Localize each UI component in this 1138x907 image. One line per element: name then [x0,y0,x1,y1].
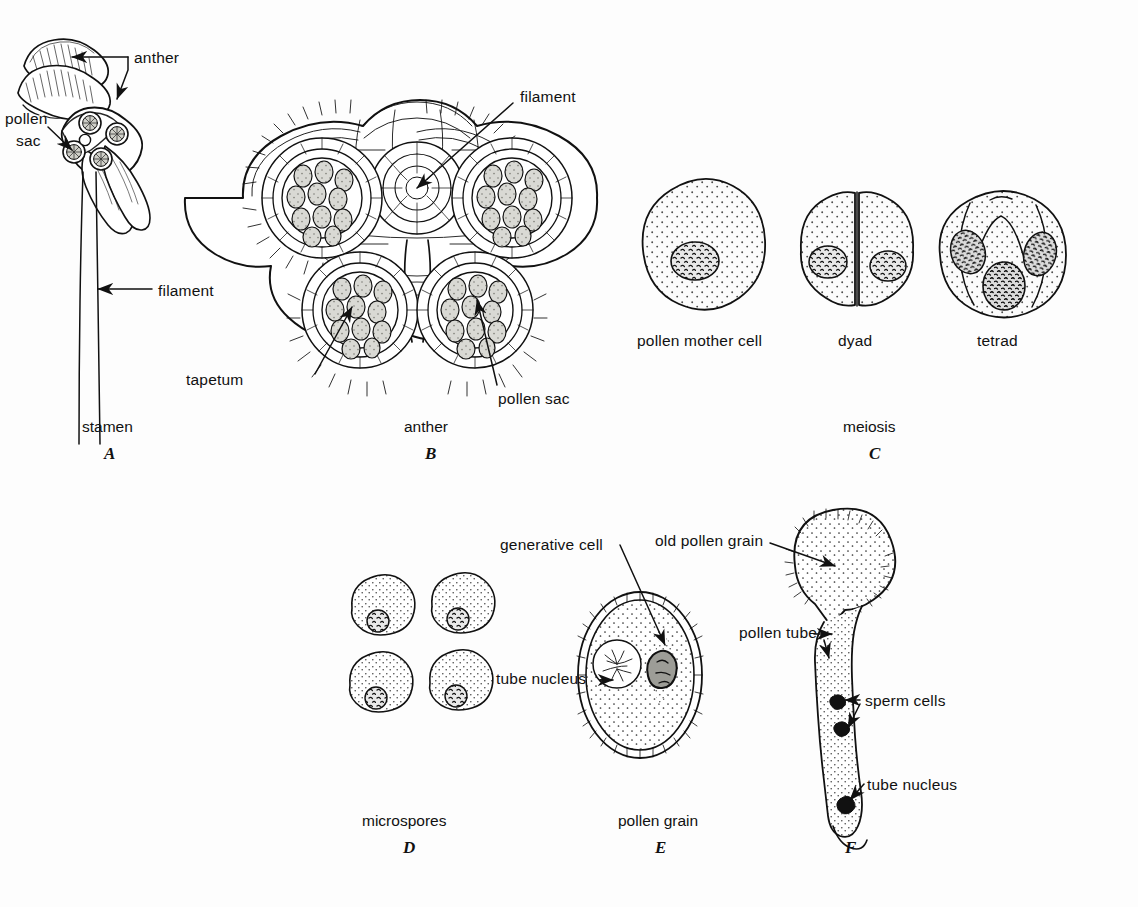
label-pollen-sac-a-line2: sac [16,132,41,150]
label-pollen-sac-b: pollen sac [498,390,570,408]
label-anther-a: anther [134,49,179,67]
label-pollen-sac-a-line1: pollen [5,110,48,128]
label-dyad: dyad [838,332,872,350]
caption-anther: anther [404,418,448,436]
panel-letter-d: D [403,838,415,858]
panel-d-drawing [350,573,495,712]
caption-meiosis: meiosis [843,418,896,436]
label-tapetum-b: tapetum [186,371,243,389]
panel-letter-c: C [869,444,880,464]
label-pollen-mother-cell: pollen mother cell [637,332,762,350]
caption-microspores: microspores [362,812,446,830]
label-sperm-cells: sperm cells [865,692,946,710]
panel-b-drawing [185,100,597,396]
label-tube-nucleus-f: tube nucleus [867,776,957,794]
panel-c-drawing [643,179,1066,318]
label-old-pollen-grain: old pollen grain [655,532,763,550]
label-generative-cell: generative cell [500,536,603,554]
panel-a-drawing [18,39,152,444]
panel-letter-a: A [104,444,115,464]
caption-pollen-grain: pollen grain [618,812,698,830]
figure-canvas: anther pollen sac filament stamen A fila… [0,0,1138,907]
label-tube-nucleus-e: tube nucleus [496,670,586,688]
panel-f-drawing [770,509,895,849]
panel-letter-f: F [845,838,856,858]
figure-drawing [0,0,1138,907]
panel-letter-b: B [425,444,436,464]
label-tetrad: tetrad [977,332,1018,350]
caption-stamen: stamen [82,418,133,436]
label-pollen-tube: pollen tube [739,624,817,642]
label-filament-b: filament [520,88,576,106]
label-filament-a: filament [158,282,214,300]
panel-e-drawing [577,545,703,758]
panel-letter-e: E [655,838,666,858]
